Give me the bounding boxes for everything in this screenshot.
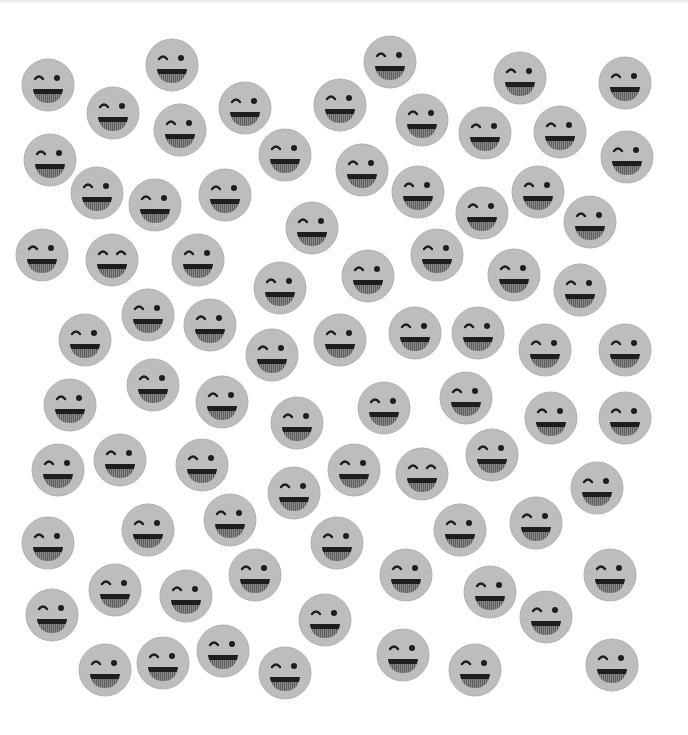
- winking-face-icon[interactable]: [410, 228, 464, 282]
- winking-face-icon[interactable]: [458, 106, 512, 160]
- winking-face-icon[interactable]: [563, 195, 617, 249]
- winking-face-icon[interactable]: [136, 636, 190, 690]
- winking-face-icon[interactable]: [203, 493, 257, 547]
- winking-face-icon[interactable]: [391, 165, 445, 219]
- winking-face-icon[interactable]: [553, 263, 607, 317]
- winking-face-icon[interactable]: [313, 313, 367, 367]
- winking-face-icon[interactable]: [93, 433, 147, 487]
- emoji-puzzle-canvas: [0, 0, 688, 735]
- winking-face-icon[interactable]: [363, 35, 417, 89]
- winking-face-icon[interactable]: [145, 38, 199, 92]
- winking-face-icon[interactable]: [270, 396, 324, 450]
- winking-face-icon[interactable]: [171, 233, 225, 287]
- winking-face-icon[interactable]: [583, 548, 637, 602]
- winking-face-icon[interactable]: [395, 93, 449, 147]
- winking-face-icon[interactable]: [121, 503, 175, 557]
- winking-face-icon[interactable]: [25, 588, 79, 642]
- winking-face-icon[interactable]: [15, 228, 69, 282]
- winking-face-icon[interactable]: [533, 105, 587, 159]
- winking-face-icon[interactable]: [218, 81, 272, 135]
- winking-face-icon[interactable]: [86, 86, 140, 140]
- winking-face-icon[interactable]: [43, 378, 97, 432]
- winking-face-icon[interactable]: [31, 443, 85, 497]
- winking-face-icon[interactable]: [310, 516, 364, 570]
- winking-face-icon[interactable]: [519, 590, 573, 644]
- winking-face-icon[interactable]: [196, 624, 250, 678]
- winking-face-icon[interactable]: [78, 643, 132, 697]
- winking-face-icon[interactable]: [23, 133, 77, 187]
- winking-face-icon[interactable]: [285, 201, 339, 255]
- winking-face-icon[interactable]: [487, 248, 541, 302]
- winking-face-icon[interactable]: [121, 288, 175, 342]
- winking-face-icon[interactable]: [335, 143, 389, 197]
- laughing-face-icon[interactable]: [85, 233, 139, 287]
- winking-face-icon[interactable]: [451, 306, 505, 360]
- winking-face-icon[interactable]: [153, 103, 207, 157]
- winking-face-icon[interactable]: [341, 249, 395, 303]
- winking-face-icon[interactable]: [439, 371, 493, 425]
- winking-face-icon[interactable]: [70, 166, 124, 220]
- winking-face-icon[interactable]: [448, 643, 502, 697]
- winking-face-icon[interactable]: [598, 391, 652, 445]
- winking-face-icon[interactable]: [379, 548, 433, 602]
- winking-face-icon[interactable]: [511, 165, 565, 219]
- winking-face-icon[interactable]: [598, 56, 652, 110]
- winking-face-icon[interactable]: [298, 593, 352, 647]
- winking-face-icon[interactable]: [524, 391, 578, 445]
- winking-face-icon[interactable]: [88, 563, 142, 617]
- winking-face-icon[interactable]: [509, 496, 563, 550]
- winking-face-icon[interactable]: [228, 548, 282, 602]
- winking-face-icon[interactable]: [245, 328, 299, 382]
- winking-face-icon[interactable]: [518, 323, 572, 377]
- winking-face-icon[interactable]: [598, 323, 652, 377]
- winking-face-icon[interactable]: [493, 51, 547, 105]
- winking-face-icon[interactable]: [585, 638, 639, 692]
- winking-face-icon[interactable]: [195, 375, 249, 429]
- winking-face-icon[interactable]: [126, 358, 180, 412]
- winking-face-icon[interactable]: [198, 168, 252, 222]
- winking-face-icon[interactable]: [465, 428, 519, 482]
- winking-face-icon[interactable]: [327, 443, 381, 497]
- winking-face-icon[interactable]: [253, 261, 307, 315]
- laughing-face-icon[interactable]: [395, 447, 449, 501]
- winking-face-icon[interactable]: [463, 565, 517, 619]
- winking-face-icon[interactable]: [313, 78, 367, 132]
- winking-face-icon[interactable]: [21, 516, 75, 570]
- winking-face-icon[interactable]: [600, 130, 654, 184]
- winking-face-icon[interactable]: [183, 298, 237, 352]
- winking-face-icon[interactable]: [159, 569, 213, 623]
- winking-face-icon[interactable]: [357, 381, 411, 435]
- winking-face-icon[interactable]: [128, 178, 182, 232]
- winking-face-icon[interactable]: [388, 306, 442, 360]
- winking-face-icon[interactable]: [376, 628, 430, 682]
- winking-face-icon[interactable]: [21, 58, 75, 112]
- winking-face-icon[interactable]: [267, 466, 321, 520]
- winking-face-icon[interactable]: [258, 646, 312, 700]
- winking-face-icon[interactable]: [433, 503, 487, 557]
- winking-face-icon[interactable]: [175, 438, 229, 492]
- winking-face-icon[interactable]: [58, 313, 112, 367]
- winking-face-icon[interactable]: [570, 461, 624, 515]
- winking-face-icon[interactable]: [258, 128, 312, 182]
